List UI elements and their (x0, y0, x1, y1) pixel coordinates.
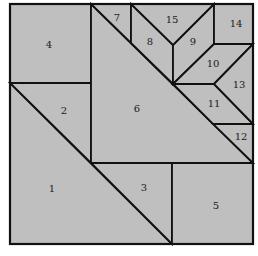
piece-label-1: 1 (49, 183, 55, 194)
piece-label-5: 5 (213, 200, 219, 211)
piece-label-8: 8 (147, 36, 153, 47)
piece-label-11: 11 (208, 98, 221, 109)
piece-label-12: 12 (235, 131, 248, 142)
dissection-diagram: 123456789101112131415 (0, 0, 258, 256)
piece-label-13: 13 (233, 79, 246, 90)
piece-label-2: 2 (61, 105, 67, 116)
piece-label-10: 10 (207, 58, 220, 69)
piece-label-4: 4 (46, 39, 52, 50)
piece-label-3: 3 (141, 182, 147, 193)
piece-label-9: 9 (190, 36, 196, 47)
piece-label-14: 14 (230, 18, 243, 29)
piece-label-15: 15 (166, 14, 179, 25)
piece-label-6: 6 (134, 103, 140, 114)
piece-label-7: 7 (114, 12, 120, 23)
